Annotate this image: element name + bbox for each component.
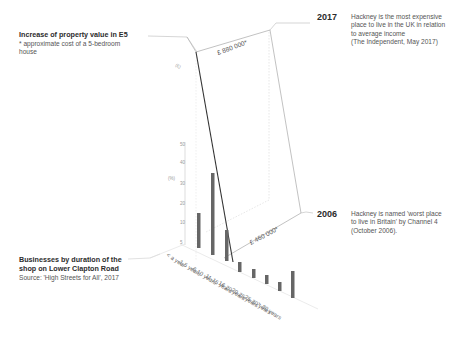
svg-text:10: 10 (180, 220, 186, 225)
bar-16-20yrs (252, 269, 256, 278)
diagram-canvas: £ 880 000* £ 460 000* (£) 50 40 30 20 10… (0, 0, 472, 337)
bar-6-10yrs (225, 230, 229, 261)
bar-gt-30yrs (291, 271, 295, 298)
category-label: > 30 years (256, 301, 282, 321)
svg-text:30: 30 (180, 181, 186, 186)
percent-axis-unit: (%) (168, 176, 175, 181)
bar-11-15yrs (238, 262, 242, 272)
svg-text:20: 20 (180, 201, 186, 206)
leader-2017 (270, 23, 310, 30)
bar-20-25yrs (265, 275, 269, 284)
value-2006-label: £ 460 000* (248, 225, 279, 246)
property-leader-line (148, 36, 197, 52)
bar-1-5yrs (211, 173, 215, 255)
property-axis-unit: (£) (175, 63, 183, 70)
business-leader-line (128, 254, 160, 259)
bar-25-30yrs (278, 282, 282, 291)
bar-lt-1yr (197, 213, 201, 248)
svg-text:40: 40 (180, 160, 186, 165)
leader-2006 (301, 212, 313, 213)
right-edge (270, 30, 301, 213)
svg-text:50: 50 (180, 142, 186, 147)
